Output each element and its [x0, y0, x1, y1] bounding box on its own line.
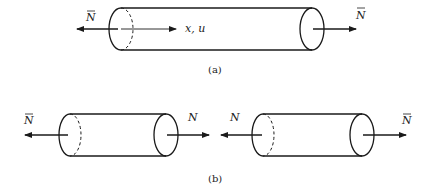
bar-cylinder	[252, 114, 374, 156]
left-force-label: N	[85, 11, 96, 24]
caption-b: (b)	[208, 173, 222, 184]
axis-label: x, u	[185, 22, 205, 35]
right-force-label: N	[355, 8, 366, 22]
panel-a: x, u N N (a)	[77, 8, 366, 75]
left-force-label: N	[23, 114, 34, 127]
bar-axial-force-diagram: x, u N N (a) N N	[0, 0, 432, 195]
right-force-label: N	[401, 114, 412, 127]
bar-cylinder	[59, 114, 178, 156]
svg-text:N: N	[355, 9, 366, 22]
panel-b-right-segment: N N	[221, 111, 412, 156]
svg-text:N: N	[401, 114, 412, 127]
svg-text:N: N	[23, 114, 34, 127]
panel-b-left-segment: N N	[23, 111, 209, 156]
svg-text:N: N	[85, 11, 96, 24]
caption-a: (a)	[208, 64, 222, 75]
right-force-label: N	[187, 111, 198, 124]
left-force-label: N	[229, 111, 240, 124]
